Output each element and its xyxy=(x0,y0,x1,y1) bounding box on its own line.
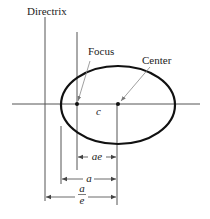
a-over-e-denominator: e xyxy=(80,194,85,206)
center-label: Center xyxy=(142,54,172,66)
focus-leader-line xyxy=(78,61,90,101)
ellipse-directrix-diagram: Directrix Focus Center c ae a a e xyxy=(0,0,210,219)
ae-label: ae xyxy=(92,150,103,162)
directrix-label: Directrix xyxy=(27,5,67,17)
focus-label: Focus xyxy=(88,45,114,57)
a-label: a xyxy=(86,172,92,184)
center-leader-line xyxy=(121,67,150,101)
c-label: c xyxy=(96,105,101,117)
a-over-e-numerator: a xyxy=(79,182,85,194)
focus-point xyxy=(75,102,79,106)
diagram-canvas: Directrix Focus Center c ae a a e xyxy=(0,0,210,219)
center-point xyxy=(116,102,120,106)
